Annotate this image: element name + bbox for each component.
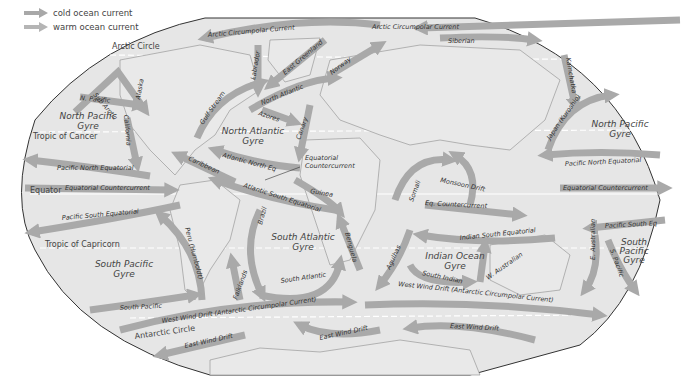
world-map: Arctic Circle Tropic of Cancer Equator T…: [0, 0, 692, 392]
label-e-australian: E. Australian: [589, 219, 597, 260]
equator-label: Equator: [30, 186, 62, 195]
arctic-circle-label: Arctic Circle: [112, 42, 160, 51]
tropic-cancer-label: Tropic of Cancer: [32, 132, 98, 141]
gyre-south-pacific-e: SouthPacificGyre: [619, 237, 648, 265]
label-arctic-circumpolar-2: Arctic Circumpolar Current: [371, 23, 459, 31]
tropic-capricorn-label: Tropic of Capricorn: [44, 240, 120, 249]
label-siberian: Siberian: [448, 37, 475, 45]
label-eq-countercurrent-w: Equatorial Countercurrent: [65, 184, 150, 192]
arrow-pacific-north-eq-e: [545, 153, 660, 156]
label-eq-countercurrent-e: Equatorial Countercurrent: [563, 184, 648, 192]
label-pacific-north-eq-w: Pacific North Equatorial: [57, 164, 134, 172]
